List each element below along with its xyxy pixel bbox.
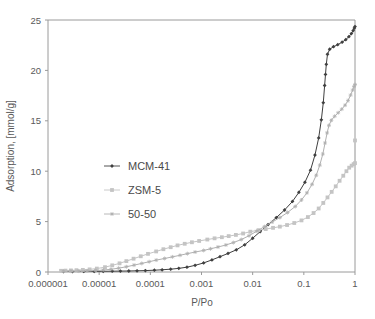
data-marker-square <box>183 242 187 246</box>
y-tick-label: 5 <box>36 216 41 227</box>
data-marker-square <box>300 218 304 222</box>
isotherm-chart: 0.0000010.000010.00010.0010.010.11 05101… <box>0 0 375 319</box>
data-marker-square <box>338 179 342 183</box>
chart-figure: 0.0000010.000010.00010.0010.010.11 05101… <box>0 0 375 319</box>
chart-background <box>0 0 375 319</box>
data-marker-star <box>239 238 243 242</box>
data-marker-star <box>255 229 259 233</box>
legend-label: ZSM-5 <box>128 184 161 196</box>
data-marker-square <box>227 234 231 238</box>
data-marker-square <box>330 190 334 194</box>
data-marker-square <box>306 215 310 219</box>
data-marker-square <box>285 223 289 227</box>
data-marker-square <box>190 240 194 244</box>
data-marker-star <box>202 248 206 252</box>
x-tick-label: 1 <box>352 278 357 289</box>
data-marker-square <box>169 245 173 249</box>
x-tick-label: 0.00001 <box>82 278 116 289</box>
data-marker-square <box>326 196 330 200</box>
x-tick-label: 0.000001 <box>28 278 68 289</box>
data-marker-star <box>193 250 197 254</box>
legend-label: MCM-41 <box>128 160 170 172</box>
data-marker-square <box>220 235 224 239</box>
data-marker-square <box>341 174 345 178</box>
x-tick-label: 0.1 <box>297 278 310 289</box>
data-marker-square <box>234 233 238 237</box>
data-marker-square <box>345 169 349 173</box>
y-axis-title: Adsorption, [mmol/g] <box>5 100 16 192</box>
data-marker-square <box>353 139 357 143</box>
data-marker-star <box>224 243 228 247</box>
x-tick-label: 0.0001 <box>136 278 165 289</box>
data-marker-square <box>154 250 158 254</box>
data-marker-star <box>247 234 251 238</box>
data-marker-square <box>278 225 282 229</box>
x-tick-label: 0.001 <box>190 278 214 289</box>
data-marker-star <box>110 212 114 216</box>
data-marker-square <box>241 232 245 236</box>
data-marker-star <box>185 252 189 256</box>
data-marker-square <box>321 201 325 205</box>
data-marker-square <box>312 211 316 215</box>
y-tick-label: 15 <box>30 115 41 126</box>
data-marker-square <box>317 207 321 211</box>
data-marker-square <box>334 184 338 188</box>
data-marker-star <box>216 245 220 249</box>
data-marker-square <box>110 263 114 267</box>
y-tick-label: 20 <box>30 65 41 76</box>
data-marker-square <box>139 254 143 258</box>
data-marker-square <box>353 161 357 165</box>
data-marker-star <box>132 263 136 267</box>
data-marker-square <box>146 252 150 256</box>
x-axis-title: P/Po <box>191 297 213 308</box>
y-tick-label: 0 <box>36 267 41 278</box>
data-marker-square <box>248 230 252 234</box>
data-marker-square <box>103 265 107 269</box>
data-marker-square <box>197 239 201 243</box>
data-marker-square <box>271 226 275 230</box>
data-marker-star <box>178 253 182 257</box>
data-marker-star <box>310 182 314 186</box>
data-marker-square <box>176 243 180 247</box>
x-tick-label: 0.01 <box>243 278 262 289</box>
data-marker-square <box>110 188 114 192</box>
data-marker-square <box>292 221 296 225</box>
data-marker-square <box>132 257 136 261</box>
data-marker-square <box>213 236 217 240</box>
data-marker-star <box>170 255 174 259</box>
data-marker-square <box>205 238 209 242</box>
data-marker-square <box>161 247 165 251</box>
data-marker-star <box>231 241 235 245</box>
data-marker-square <box>118 261 122 265</box>
data-marker-star <box>353 83 357 87</box>
legend-label: 50-50 <box>128 208 156 220</box>
data-marker-star <box>209 247 213 251</box>
y-tick-label: 10 <box>30 166 41 177</box>
data-marker-square <box>124 259 128 263</box>
y-tick-label: 25 <box>30 15 41 26</box>
